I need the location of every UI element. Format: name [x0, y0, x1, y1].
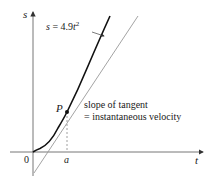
point-p-label: P	[55, 102, 63, 114]
parabola-curve	[33, 16, 110, 152]
x-axis-label: t	[195, 154, 199, 166]
point-p	[65, 110, 69, 114]
y-axis-label: s	[23, 8, 27, 20]
tangent-diagram: s t 0 a P s = 4.9t2 slope of tangent = i…	[0, 0, 208, 187]
annotation-line-1: slope of tangent	[84, 99, 148, 110]
curve-equation-label: s = 4.9t2	[46, 20, 80, 32]
tick-label-a: a	[64, 154, 69, 165]
annotation-line-2: = instantaneous velocity	[84, 111, 181, 122]
origin-label: 0	[24, 154, 29, 165]
tangent-line	[34, 16, 138, 173]
